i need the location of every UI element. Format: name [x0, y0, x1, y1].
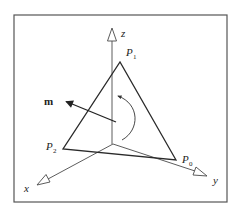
y-axis — [113, 144, 207, 176]
triangle-normal-diagram: z x y P 1 P 2 P 0 m — [0, 0, 239, 213]
label-p2: P 2 — [45, 140, 57, 155]
z-axis — [108, 28, 117, 144]
y-axis-label: y — [212, 174, 218, 186]
svg-text:P: P — [181, 153, 189, 165]
rotation-arrow-icon — [118, 96, 135, 140]
normal-vector-label: m — [44, 95, 53, 107]
label-p1: P 1 — [125, 46, 137, 61]
svg-text:1: 1 — [133, 53, 137, 61]
z-axis-label: z — [120, 27, 126, 39]
triangle-p0-p1-p2 — [63, 62, 176, 160]
svg-text:P: P — [125, 46, 133, 58]
svg-text:2: 2 — [53, 147, 57, 155]
label-p0: P 0 — [181, 153, 193, 168]
svg-text:P: P — [45, 140, 53, 152]
y-axis-arrowhead-icon — [193, 167, 207, 176]
x-axis-arrowhead-icon — [37, 175, 50, 186]
svg-text:0: 0 — [189, 160, 193, 168]
z-axis-arrowhead-icon — [108, 28, 117, 41]
x-axis-label: x — [23, 182, 29, 194]
normal-vector-arrow — [66, 102, 116, 123]
